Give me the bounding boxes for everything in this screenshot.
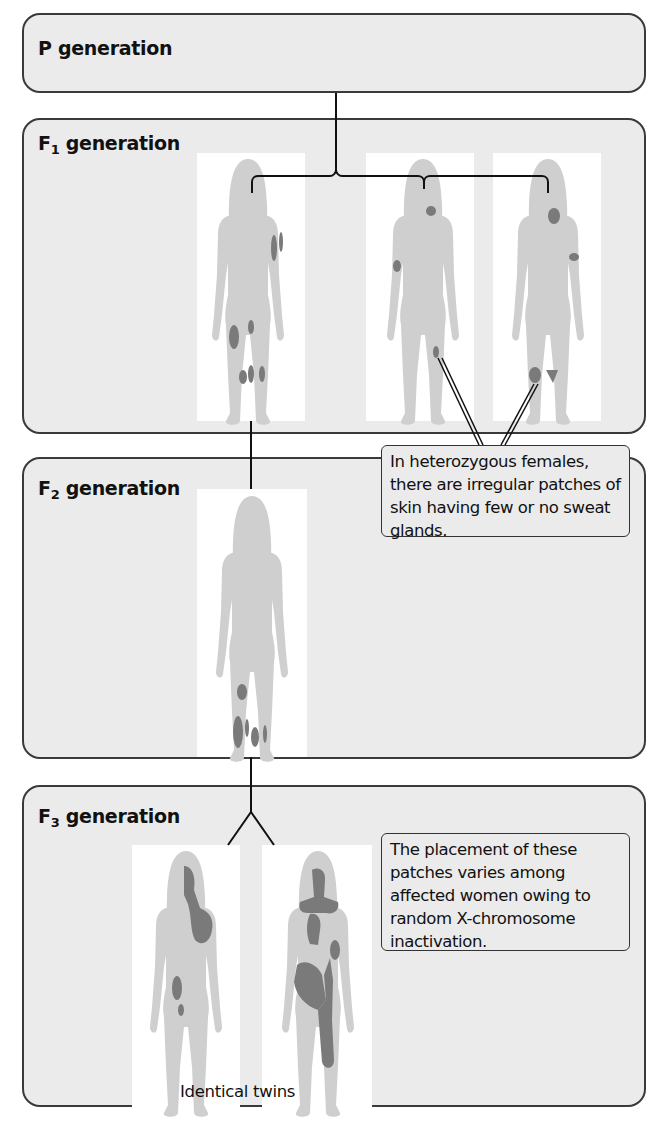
p-generation-panel: P generation — [22, 13, 646, 93]
f3-generation-label: F3 generation — [38, 805, 180, 830]
identical-twins-caption: Identical twins — [180, 1082, 295, 1101]
f1-card-1 — [197, 153, 305, 421]
f1-generation-label: F1 generation — [38, 132, 180, 157]
p-generation-label: P generation — [38, 37, 172, 59]
f1-card-3 — [493, 153, 601, 421]
f2-card — [197, 489, 307, 757]
f1-card-2 — [366, 153, 474, 421]
placement-callout: The placement of these patches varies am… — [381, 833, 630, 951]
f3-card-twin-1 — [132, 845, 240, 1115]
f3-card-twin-2 — [262, 845, 372, 1115]
f2-generation-label: F2 generation — [38, 477, 180, 502]
heterozygous-callout: In heterozygous females, there are irreg… — [381, 445, 630, 537]
